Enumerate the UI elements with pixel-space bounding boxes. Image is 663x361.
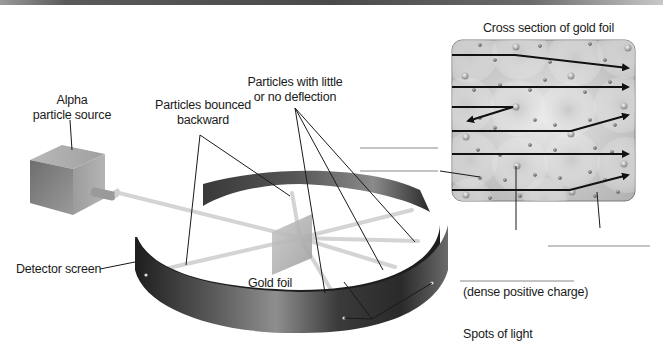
foil-cross-section <box>438 22 653 222</box>
label-detector-screen: Detector screen <box>16 262 101 277</box>
label-alpha-source-line2: particle source <box>30 108 114 123</box>
label-little-deflection-line1: Particles with little <box>236 75 354 90</box>
detector-screen-back <box>203 171 430 212</box>
label-alpha-source-line1: Alpha <box>30 93 114 108</box>
label-little-deflection-line2: or no deflection <box>236 90 354 105</box>
label-little-deflection: Particles with little or no deflection <box>236 75 354 105</box>
label-dense-positive-charge: (dense positive charge) <box>463 285 588 300</box>
label-bounced-line2: backward <box>148 113 258 128</box>
alpha-source-cube <box>30 145 120 215</box>
label-alpha-source: Alpha particle source <box>30 93 114 123</box>
label-cross-section-title: Cross section of gold foil <box>483 21 614 36</box>
experiment-illustration <box>0 0 663 361</box>
gold-foil-sheet <box>272 214 312 275</box>
label-gold-foil: Gold foil <box>248 276 292 291</box>
label-spots-of-light: Spots of light <box>463 327 532 342</box>
